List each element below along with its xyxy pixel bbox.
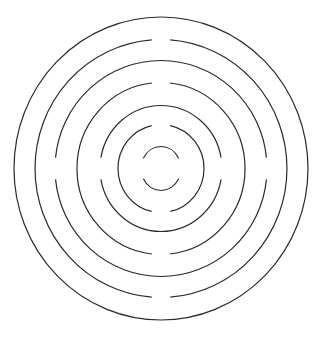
- circular-maze: [0, 0, 324, 343]
- ring-6-arc-1: [170, 126, 204, 212]
- ring-7-inner-arc-2: [143, 146, 178, 158]
- ring-5-arc-2: [101, 106, 221, 158]
- ring-3-arc-2: [56, 60, 267, 157]
- ring-2-arc-2: [35, 40, 152, 297]
- ring-2-arc-1: [170, 40, 287, 297]
- ring-3-arc-1: [56, 179, 267, 276]
- ring-7-inner-arc-1: [143, 179, 178, 191]
- ring-6-arc-2: [118, 126, 152, 212]
- ring-1-outer: [14, 17, 308, 320]
- ring-5-arc-1: [101, 179, 221, 231]
